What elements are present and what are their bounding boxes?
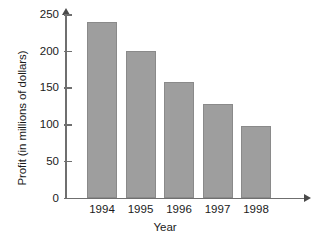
- bars-layer: [65, 8, 311, 198]
- bar: [87, 22, 117, 197]
- y-tick-label: 0: [53, 192, 59, 204]
- x-tick-label: 1997: [198, 203, 238, 215]
- x-tick-label: 1995: [121, 203, 161, 215]
- x-tick-label: 1994: [82, 203, 122, 215]
- caption-fragment: [6, 243, 156, 252]
- bar-chart-figure: Profit (in millions of dollars) 05010015…: [0, 0, 328, 252]
- x-axis-title: Year: [65, 221, 265, 233]
- bar: [241, 126, 271, 197]
- y-tick-label: 50: [46, 155, 59, 167]
- x-tick-label: 1998: [236, 203, 276, 215]
- x-axis-line: [65, 198, 305, 200]
- bar: [126, 51, 156, 197]
- y-tick-label: 200: [40, 45, 59, 57]
- plot-area: 050100150200250: [65, 8, 311, 199]
- y-tick-label: 250: [40, 8, 59, 20]
- bar: [203, 104, 233, 197]
- y-tick-label: 150: [40, 81, 59, 93]
- y-tick-mark: [64, 198, 72, 200]
- x-tick-label: 1996: [159, 203, 199, 215]
- y-tick-label: 100: [40, 118, 59, 130]
- bar: [164, 82, 194, 197]
- y-axis-title: Profit (in millions of dollars): [16, 20, 28, 216]
